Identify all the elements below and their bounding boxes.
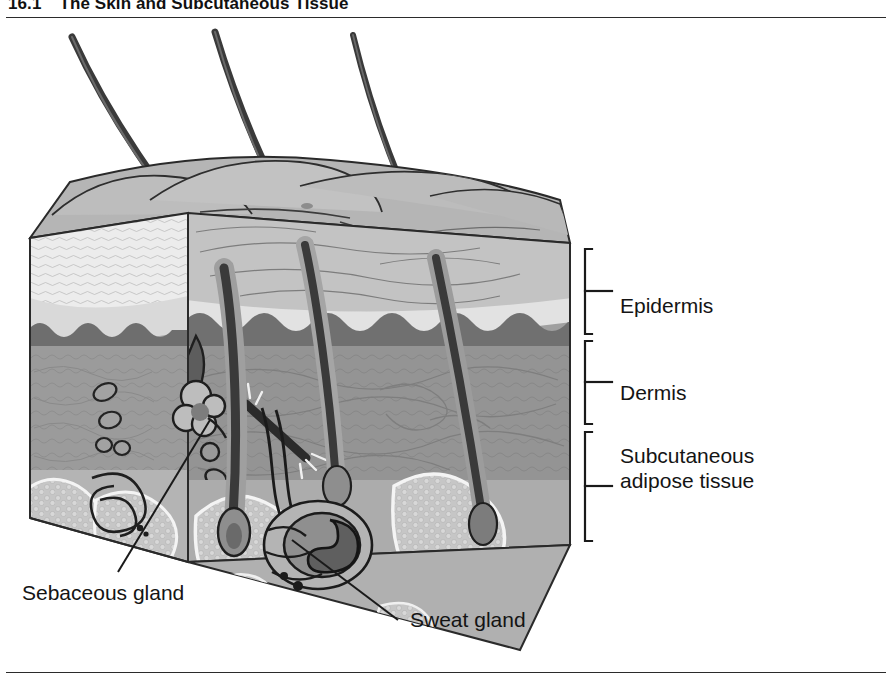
label-dermis: Dermis (620, 380, 687, 405)
bracket-subcutaneous (585, 432, 612, 541)
layer-brackets (585, 249, 612, 541)
bracket-epidermis (585, 249, 612, 334)
label-sweat-gland: Sweat gland (410, 607, 526, 632)
label-subcutaneous-adipose-tissue: Subcutaneous adipose tissue (620, 443, 810, 493)
bracket-dermis (585, 341, 612, 424)
label-epidermis: Epidermis (620, 293, 713, 318)
label-sebaceous-gland: Sebaceous gland (22, 580, 184, 605)
skin-left-face-cross-section (22, 213, 192, 580)
figure-root: 16.1The Skin and Subcutaneous Tissue (0, 0, 892, 685)
